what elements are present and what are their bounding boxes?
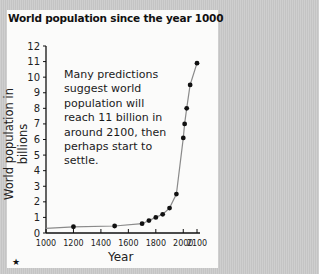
data-point: [147, 218, 152, 223]
y-tick-label: 12: [27, 41, 40, 52]
data-point: [195, 61, 200, 66]
data-point: [188, 83, 193, 88]
y-tick-label: 4: [34, 165, 40, 176]
y-tick-label: 9: [34, 87, 40, 98]
data-point: [182, 122, 187, 127]
y-tick-label: 6: [34, 134, 40, 145]
data-point: [140, 221, 145, 226]
population-curve: [46, 63, 197, 228]
x-tick-label: 1200: [63, 239, 83, 248]
data-point: [71, 224, 76, 229]
y-tick-label: 11: [27, 56, 40, 67]
x-tick-label: 1800: [146, 239, 166, 248]
y-tick-label: 2: [34, 196, 40, 207]
data-point: [160, 212, 165, 217]
data-point: [174, 192, 179, 197]
data-point: [153, 215, 158, 220]
y-tick-label: 7: [34, 118, 40, 129]
data-point: [184, 106, 189, 111]
y-tick-label: 0: [34, 228, 40, 239]
x-tick-label: 2100: [187, 239, 207, 248]
x-tick-label: 1400: [91, 239, 111, 248]
y-tick-label: 1: [34, 212, 40, 223]
data-point: [181, 136, 186, 141]
y-tick-label: 3: [34, 181, 40, 192]
y-tick-label: 8: [34, 103, 40, 114]
x-tick-label: 1600: [118, 239, 138, 248]
plot-area: 0123456789101112100012001400160018002000…: [0, 0, 225, 274]
y-tick-label: 5: [34, 150, 40, 161]
x-tick-label: 1000: [36, 239, 56, 248]
y-tick-label: 10: [27, 72, 40, 83]
data-point: [167, 206, 172, 211]
data-point: [112, 224, 117, 229]
